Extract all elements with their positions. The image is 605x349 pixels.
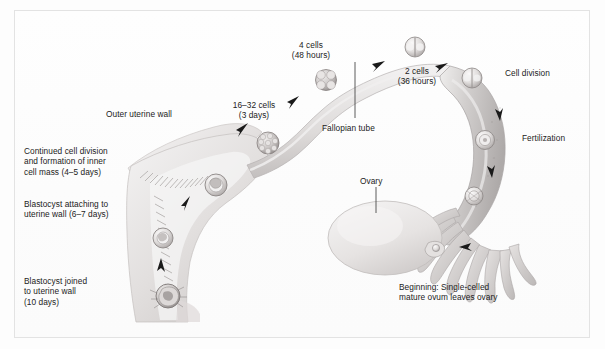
cervix-shading — [176, 300, 200, 322]
ovulation-follicle — [425, 241, 445, 257]
stage-2-cells — [405, 37, 425, 57]
uterus — [127, 124, 268, 322]
label-beginning-ovum: Beginning: Single-celled mature ovum lea… — [399, 282, 498, 303]
label-fertilization: Fertilization — [522, 133, 565, 143]
label-continued-cell-division: Continued cell division and formation of… — [24, 146, 108, 177]
label-ovary: Ovary — [360, 176, 382, 186]
stage-blastocyst-attaching — [153, 228, 173, 248]
stage-ovum — [465, 187, 483, 205]
stage-morula — [257, 132, 279, 154]
label-fallopian-tube: Fallopian tube — [322, 123, 375, 133]
stage-fertilization — [476, 131, 495, 150]
stage-4-cells — [316, 70, 337, 91]
stage-cell-division — [462, 68, 482, 88]
stage-blastocyst-inner-cell-mass — [205, 174, 227, 196]
label-outer-uterine-wall: Outer uterine wall — [106, 109, 172, 119]
label-16-32-cells: 16–32 cells (3 days) — [218, 100, 290, 121]
label-4-cells: 4 cells (48 hours) — [278, 40, 344, 61]
figure-container: Outer uterine wall Continued cell divisi… — [0, 0, 605, 349]
label-blastocyst-joined: Blastocyst joined to uterine wall (10 da… — [24, 276, 87, 307]
label-2-cells: 2 cells (36 hours) — [384, 66, 450, 87]
label-cell-division: Cell division — [505, 68, 550, 78]
label-blastocyst-attaching: Blastocyst attaching to uterine wall (6–… — [24, 199, 109, 220]
